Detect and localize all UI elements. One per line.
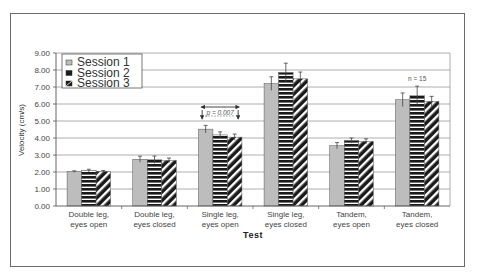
category-label: Double leg, — [69, 210, 109, 219]
category-label: eyes open — [70, 220, 107, 229]
bar-session-1 — [395, 100, 410, 206]
y-tick-label: 8.00 — [34, 66, 50, 75]
bar-session-2 — [410, 96, 425, 207]
bar-session-1 — [67, 172, 82, 206]
category-label: eyes open — [202, 220, 239, 229]
bar-session-2 — [147, 160, 162, 206]
category-label: Single leg, — [201, 210, 238, 219]
annotations: p = 0.007n = 15 — [201, 75, 427, 119]
x-axis: Double leg,eyes openDouble leg,eyes clos… — [56, 206, 450, 229]
category-label: eyes closed — [265, 220, 307, 229]
category-label: eyes closed — [133, 220, 175, 229]
bar-session-3 — [162, 160, 177, 206]
bar-session-2 — [213, 135, 228, 206]
bar-session-2 — [82, 171, 97, 206]
bar-session-3 — [359, 141, 374, 206]
y-axis: 0.001.002.003.004.005.006.007.008.009.00 — [34, 49, 56, 211]
bar-chart: 0.001.002.003.004.005.006.007.008.009.00… — [0, 0, 477, 280]
bar-session-3 — [227, 137, 242, 206]
y-axis-title: Velocity (cm/s) — [17, 104, 26, 156]
x-axis-title: Test — [243, 230, 263, 240]
bar-session-3 — [293, 79, 308, 206]
category-label: eyes closed — [396, 220, 438, 229]
bar-session-1 — [264, 84, 279, 206]
y-tick-label: 2.00 — [34, 168, 50, 177]
y-tick-label: 5.00 — [34, 117, 50, 126]
category-label: Tandem, — [336, 210, 367, 219]
y-tick-label: 7.00 — [34, 83, 50, 92]
category-label: eyes open — [333, 220, 370, 229]
category-label: Double leg, — [134, 210, 174, 219]
bar-session-2 — [279, 73, 294, 206]
y-tick-label: 1.00 — [34, 185, 50, 194]
legend-label: Session 3 — [77, 76, 130, 90]
bar-session-2 — [344, 141, 359, 206]
legend: Session 1Session 2Session 3 — [62, 54, 142, 90]
y-tick-label: 3.00 — [34, 151, 50, 160]
bar-session-3 — [424, 101, 439, 206]
y-tick-label: 6.00 — [34, 100, 50, 109]
p-value-label: p = 0.007 — [206, 109, 235, 117]
bar-session-1 — [330, 146, 345, 206]
y-tick-label: 9.00 — [34, 49, 50, 58]
bar-session-1 — [198, 129, 213, 206]
legend-swatch-1 — [66, 60, 72, 65]
category-label: Tandem, — [402, 210, 433, 219]
legend-swatch-2 — [66, 71, 72, 76]
y-tick-label: 4.00 — [34, 134, 50, 143]
category-label: Single leg, — [267, 210, 304, 219]
sample-size-label: n = 15 — [408, 75, 427, 82]
bar-session-3 — [96, 171, 111, 206]
y-tick-label: 0.00 — [34, 202, 50, 211]
bar-session-1 — [133, 159, 148, 206]
